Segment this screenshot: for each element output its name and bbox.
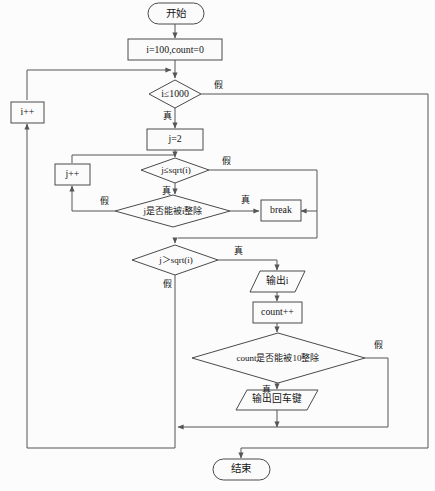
node-count-inc-label: count++ [261, 306, 294, 317]
edge-cond-count-false [365, 358, 388, 427]
edge-cond-jgt-true-to-printi [218, 260, 277, 270]
node-break-label: break [270, 204, 292, 215]
edge-jinc-to-loop [72, 155, 175, 163]
node-print-newline-label: 输出回车键 [252, 392, 302, 404]
node-cond-div-label: j是否能被i整除 [142, 205, 202, 216]
node-i-inc-label: i++ [21, 106, 35, 117]
node-cond-i-label: i≤1000 [161, 88, 189, 99]
node-cond-j-le-label: j≤sqrt(i) [160, 165, 190, 175]
node-j-inc-label: j++ [65, 168, 80, 179]
edge-label-cond-jle-false: 假 [222, 156, 231, 166]
node-end-label: 结束 [231, 462, 252, 474]
edge-label-cond-i-true: 真 [163, 110, 172, 121]
node-j-init-label: j=2 [167, 133, 181, 144]
edge-cond-div-false-to-jinc [72, 186, 115, 211]
node-print-i-label: 输出i [266, 274, 289, 286]
node-cond-j-gt-label: j＞sqrt(i) [158, 255, 193, 265]
node-start-label: 开始 [166, 7, 187, 19]
edge-rail-to-end [241, 448, 303, 458]
flowchart-svg: 开始 i=100,count=0 i≤1000 i++ j=2 j≤sqrt(i… [0, 0, 435, 491]
edge-label-cond-i-false: 假 [214, 80, 223, 90]
edge-iinc-to-loop-top [27, 70, 171, 100]
node-cond-count-label: count是否能被10整除 [237, 352, 320, 363]
edge-label-cond-count-false: 假 [374, 340, 383, 350]
edge-label-cond-jgt-false: 假 [163, 279, 172, 289]
edge-label-cond-jle-true: 真 [162, 185, 171, 196]
flowchart-canvas: 开始 i=100,count=0 i≤1000 i++ j=2 j≤sqrt(i… [0, 0, 435, 491]
edge-label-cond-jgt-true: 真 [234, 245, 243, 256]
edge-label-cond-count-true: 真 [262, 384, 271, 395]
node-init-label: i=100,count=0 [146, 44, 204, 55]
edge-label-cond-div-true: 真 [241, 194, 250, 205]
edge-label-cond-div-false: 假 [100, 196, 109, 206]
